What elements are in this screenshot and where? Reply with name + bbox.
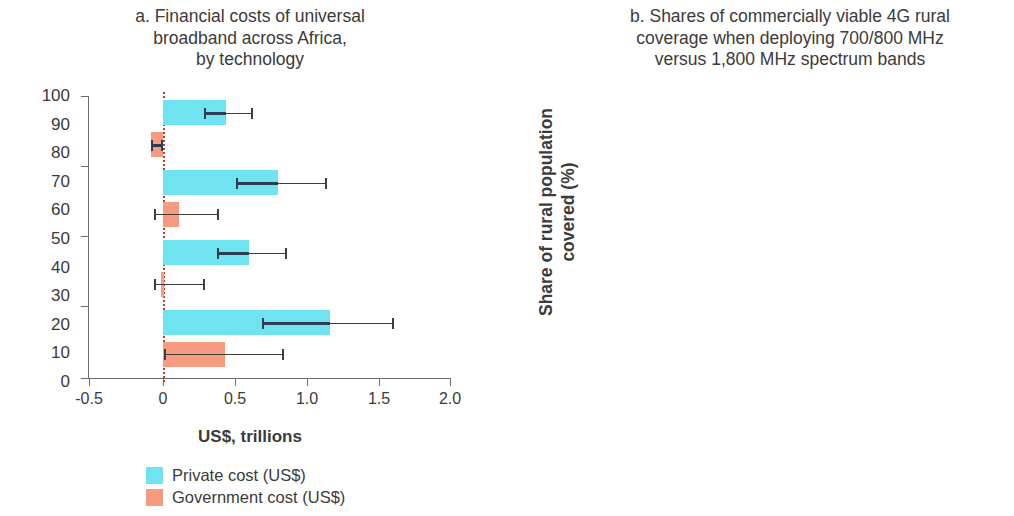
panel-b-y-tick-label: 10: [51, 343, 70, 363]
panel-a-financial-costs: a. Financial costs of universal broadban…: [0, 0, 500, 516]
errorbar-cap: [154, 209, 156, 220]
panel-b-y-tick-label: 100: [42, 86, 70, 106]
panel-b-axis-title-line-1: Share of rural population: [535, 67, 557, 357]
panel-a-x-tick-label: 1.0: [272, 390, 342, 408]
panel-a-title: a. Financial costs of universal broadban…: [60, 6, 440, 71]
legend-item-government-cost: Government cost (US$): [146, 488, 345, 507]
panel-a-y-tick: [81, 96, 89, 97]
errorbar-government-4gf: [154, 214, 218, 215]
panel-a-y-axis-line: [88, 96, 89, 378]
errorbar-cap: [236, 178, 238, 189]
legend-swatch-private-icon: [146, 467, 163, 484]
errorbar-cap: [282, 349, 284, 360]
panel-b-axis-title: Share of rural population covered (%): [535, 67, 579, 357]
errorbar-government-3gw: [154, 284, 204, 285]
errorbar-cap: [203, 279, 205, 290]
figure-root: a. Financial costs of universal broadban…: [0, 0, 1014, 516]
panel-a-x-tick: [235, 378, 236, 386]
errorbar-cap: [325, 178, 327, 189]
errorbar-cap: [285, 248, 287, 259]
errorbar-cap: [164, 349, 166, 360]
errorbar-cap: [217, 209, 219, 220]
panel-b-y-tick-label: 60: [51, 200, 70, 220]
panel-a-y-tick: [81, 166, 89, 167]
errorbar-private-3gf-inner: [262, 322, 330, 325]
panel-a-x-tick: [307, 378, 308, 386]
panel-a-x-tick: [163, 378, 164, 386]
panel-a-zero-reference-line: [163, 92, 165, 382]
panel-a-y-tick: [81, 306, 89, 307]
errorbar-cap: [151, 140, 153, 151]
panel-b-title-line-1: b. Shares of commercially viable 4G rura…: [580, 6, 1000, 28]
panel-a-x-tick: [450, 378, 451, 386]
panel-b-y-tick-label: 90: [51, 115, 70, 135]
panel-b-title-line-3: versus 1,800 MHz spectrum bands: [580, 49, 1000, 71]
errorbar-private-3gw-outer: [249, 253, 286, 254]
errorbar-cap: [204, 108, 206, 119]
panel-b-axis-title-line-2: covered (%): [557, 67, 579, 357]
panel-b-rural-coverage: b. Shares of commercially viable 4G rura…: [500, 0, 1014, 516]
legend-item-private-cost: Private cost (US$): [146, 466, 345, 485]
errorbar-cap: [154, 279, 156, 290]
panel-a-title-line-2: broadband across Africa,: [60, 28, 440, 50]
panel-b-y-tick-label: 0: [61, 372, 70, 392]
panel-b-y-tick-label: 30: [51, 286, 70, 306]
panel-b-y-tick-label: 40: [51, 258, 70, 278]
legend-label: Private cost (US$): [172, 466, 306, 485]
panel-a-x-tick-label: 1.5: [344, 390, 414, 408]
errorbar-cap: [262, 318, 264, 329]
panel-b-title: b. Shares of commercially viable 4G rura…: [580, 6, 1000, 71]
panel-a-x-tick: [89, 378, 90, 386]
errorbar-cap: [251, 108, 253, 119]
panel-b-y-tick-label: 80: [51, 143, 70, 163]
panel-a-y-tick: [81, 378, 89, 379]
panel-b-y-tick-label: 20: [51, 315, 70, 335]
errorbar-private-4gw-inner: [204, 112, 226, 115]
errorbar-cap: [217, 248, 219, 259]
panel-b-y-tick-label: 50: [51, 229, 70, 249]
errorbar-private-4gw-outer: [226, 113, 252, 114]
legend-swatch-government-icon: [146, 489, 163, 506]
panel-a-title-line-1: a. Financial costs of universal: [60, 6, 440, 28]
panel-a-x-tick-label: 2.0: [415, 390, 485, 408]
panel-a-title-line-3: by technology: [60, 49, 440, 71]
errorbar-cap: [392, 318, 394, 329]
panel-a-legend: Private cost (US$) Government cost (US$): [146, 466, 345, 510]
panel-a-x-tick: [379, 378, 380, 386]
panel-a-x-tick-label: 0: [133, 390, 193, 408]
errorbar-private-4gf-outer: [278, 183, 326, 184]
panel-a-x-tick-label: -0.5: [49, 390, 129, 408]
errorbar-government-3gf: [165, 354, 283, 355]
errorbar-cap: [161, 140, 163, 151]
panel-a-axis-title: US$, trillions: [140, 427, 360, 447]
panel-b-title-line-2: coverage when deploying 700/800 MHz: [580, 28, 1000, 50]
panel-a-x-axis-line: [88, 378, 450, 379]
errorbar-private-3gf-outer: [330, 323, 393, 324]
panel-a-x-tick-label: 0.5: [200, 390, 270, 408]
errorbar-private-4gf-inner: [236, 182, 278, 185]
errorbar-private-3gw-inner: [217, 252, 249, 255]
panel-a-y-tick: [81, 236, 89, 237]
legend-label: Government cost (US$): [172, 488, 345, 507]
panel-b-y-tick-label: 70: [51, 172, 70, 192]
